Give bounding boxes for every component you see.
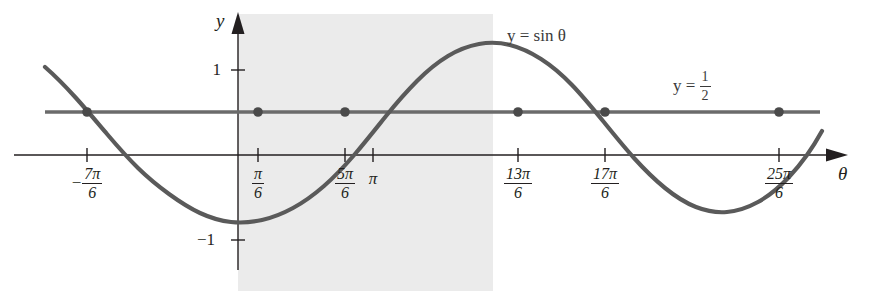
fraction: π6 [252, 166, 264, 201]
intersection-dot-13pi-6 [513, 107, 523, 117]
fraction: 13π6 [504, 166, 532, 201]
y-axis-label: y [216, 10, 224, 32]
fraction: 5π6 [335, 166, 355, 201]
intersection-dot-5pi-6 [340, 107, 350, 117]
x-tick-label-pi: π [358, 170, 388, 187]
half-line-equation-label: y = 1 2 [673, 70, 711, 105]
x-tick-label-13pi-6: 13π6 [483, 166, 553, 201]
pi-symbol: π [369, 169, 378, 188]
one-half-fraction: 1 2 [700, 69, 711, 104]
shaded-period-region [238, 14, 493, 291]
x-tick-label-neg-7pi-6: −7π6 [47, 166, 127, 201]
fraction: 7π6 [82, 166, 102, 201]
sine-graph-figure: y θ 1 −1 −7π6 π6 5π6 π 13π6 17π6 25π6 y … [0, 0, 873, 291]
x-axis-label: θ [838, 163, 847, 185]
x-tick-label-pi-6: π6 [228, 166, 288, 201]
plot-canvas [0, 0, 873, 291]
fraction: 17π6 [591, 166, 619, 201]
intersection-dot-neg-7pi-6 [82, 107, 92, 117]
half-line-equation-lead: y = [673, 76, 695, 95]
minus-sign: − [72, 174, 83, 191]
fraction: 25π6 [765, 166, 793, 201]
intersection-dot-25pi-6 [774, 107, 784, 117]
x-tick-label-25pi-6: 25π6 [744, 166, 814, 201]
y-tick-label-neg-1: −1 [185, 230, 215, 250]
y-tick-label-1: 1 [191, 60, 221, 80]
intersection-dot-17pi-6 [600, 107, 610, 117]
curve-equation-label: y = sin θ [507, 26, 566, 46]
intersection-dot-pi-6 [253, 107, 263, 117]
x-axis-arrowhead [826, 149, 848, 162]
x-tick-label-17pi-6: 17π6 [570, 166, 640, 201]
